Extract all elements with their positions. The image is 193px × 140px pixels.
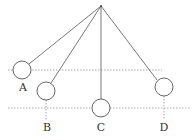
label-c: C bbox=[97, 121, 105, 134]
string-a bbox=[29, 6, 101, 64]
string-b bbox=[51, 6, 101, 83]
label-b: B bbox=[43, 121, 51, 134]
ball-b bbox=[37, 82, 55, 100]
string-d bbox=[101, 6, 157, 80]
ball-d bbox=[155, 78, 173, 96]
ball-a bbox=[13, 61, 31, 79]
ball-c bbox=[92, 99, 110, 117]
label-a: A bbox=[18, 81, 28, 94]
pivot-point bbox=[100, 5, 102, 7]
label-d: D bbox=[160, 121, 169, 134]
pendulum-diagram: A B C D bbox=[0, 0, 193, 140]
